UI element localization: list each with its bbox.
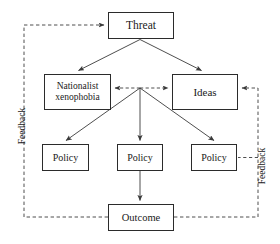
node-policy-right-label: Policy (201, 152, 227, 163)
node-threat[interactable]: Threat (108, 12, 174, 39)
edge-threat-to-nationalist (79, 40, 141, 71)
feedback-label-left-text: Feedback (17, 108, 27, 144)
node-policy-center-label: Policy (127, 152, 153, 163)
diagram-canvas: Threat Nationalist xenophobia Ideas Poli… (0, 0, 280, 244)
node-outcome[interactable]: Outcome (108, 204, 174, 231)
node-ideas[interactable]: Ideas (172, 74, 238, 110)
node-outcome-label: Outcome (122, 212, 161, 224)
node-ideas-label: Ideas (193, 86, 216, 98)
edge-threat-to-ideas (140, 40, 202, 71)
node-nationalist-xenophobia-label: Nationalist xenophobia (55, 81, 99, 102)
feedback-label-left: Feedback (17, 96, 27, 156)
edge-feedback-left-loop (24, 25, 108, 217)
feedback-label-right: Feedback (257, 136, 267, 196)
node-threat-label: Threat (126, 19, 156, 32)
node-nationalist-xenophobia[interactable]: Nationalist xenophobia (44, 74, 111, 110)
node-policy-right[interactable]: Policy (191, 144, 237, 171)
feedback-label-right-text: Feedback (257, 148, 267, 184)
node-policy-center[interactable]: Policy (117, 144, 163, 171)
node-policy-left-label: Policy (53, 152, 79, 163)
node-policy-left[interactable]: Policy (42, 144, 89, 171)
